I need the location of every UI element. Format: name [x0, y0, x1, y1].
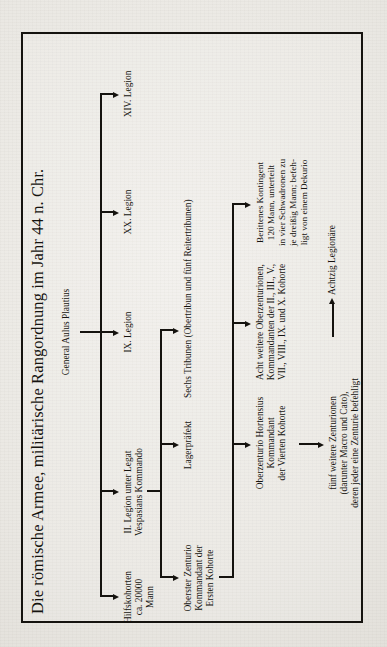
connector-second-legion-drop — [147, 491, 161, 493]
node-camp-prefect: Lagerpräfekt — [183, 400, 194, 490]
arrow-to-ninth-legion — [113, 331, 119, 337]
node-eight-centurions: Acht weitere Oberzenturionen, Kommandant… — [255, 247, 289, 397]
node-chief-centurion: Oberster Zenturio Kommandant der Ersten … — [183, 523, 217, 633]
arrow-to-eight-centurions — [245, 322, 251, 328]
connector-level2-spine — [160, 330, 162, 578]
arrow-to-five-centurions — [318, 443, 324, 449]
node-fourteenth-legion: XIV. Legion — [123, 51, 134, 137]
connector-level2-left-elbow — [160, 577, 174, 579]
arrow-to-twentieth-legion — [113, 211, 119, 217]
arrow-to-chief-centurion — [173, 576, 179, 582]
connector-hortensius-drop — [299, 444, 319, 446]
connector-level1-drop-second-legion — [100, 491, 114, 493]
arrow-to-camp-prefect — [173, 443, 179, 449]
connector-level3-drop-eight-centurions — [232, 323, 246, 325]
connector-commander-drop — [80, 332, 101, 334]
connector-level1-spine — [100, 94, 102, 597]
node-commander: General Aulus Plautius — [61, 247, 72, 417]
node-twentieth-legion: XX. Legion — [123, 169, 134, 255]
node-cavalry-contingent: Berittenes Kontingent 120 Mann, untertei… — [255, 140, 310, 265]
arrow-to-cavalry — [245, 203, 251, 209]
connector-level3-spine-right — [232, 204, 234, 324]
connector-level1-right-elbow — [100, 94, 114, 96]
node-second-legion: II. Legion unter Legat Vespasians Komman… — [123, 422, 145, 562]
node-hortensius: Oberzenturio Hortensius Kommandant der V… — [255, 379, 289, 507]
arrow-to-second-legion — [113, 490, 119, 496]
connector-level3-spine — [232, 323, 234, 578]
connector-level3-drop-cavalry — [232, 204, 246, 206]
diagram-frame: Die römische Armee, militärische Rangord… — [21, 32, 363, 623]
rotated-diagram-canvas: Die römische Armee, militärische Rangord… — [23, 34, 365, 625]
connector-to-legionaries — [332, 303, 334, 337]
arrow-to-six-tribunes — [173, 329, 179, 335]
arrow-to-auxiliary-cohorts — [113, 595, 119, 601]
node-five-centurions: fünf weitere Zenturionen (darunter Macro… — [328, 353, 362, 533]
connector-chief-centurion-drop — [219, 577, 233, 579]
connector-level2-drop-camp-prefect — [160, 444, 174, 446]
connector-level3-drop-hortensius — [232, 444, 246, 446]
connector-level1-left-elbow — [100, 596, 114, 598]
page-title: Die römische Armee, militärische Rangord… — [29, 39, 47, 614]
node-six-tribunes: Sechs Tribunen (Obertribun und fünf Reit… — [183, 68, 194, 398]
arrow-to-hortensius — [245, 443, 251, 449]
connector-level1-drop-twentieth-legion — [100, 212, 114, 214]
arrow-to-legionaries — [329, 298, 335, 304]
node-auxiliary-cohorts: Hilfskohorten ca. 20000 Mann — [123, 547, 157, 647]
connector-level2-right-elbow — [160, 330, 174, 332]
arrow-to-fourteenth-legion — [113, 93, 119, 99]
node-ninth-legion: IX. Legion — [123, 289, 134, 375]
node-legionaries: Achtzig Legionäre — [327, 175, 338, 295]
book-page: Die römische Armee, militärische Rangord… — [0, 0, 387, 647]
connector-level1-drop-ninth-legion — [100, 332, 114, 334]
